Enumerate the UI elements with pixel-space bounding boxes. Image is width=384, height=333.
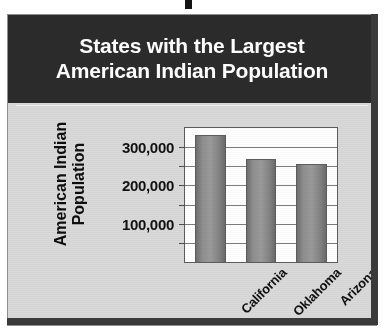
- y-axis-tick-mark: [179, 185, 185, 186]
- y-axis-title: American Indian Population: [44, 109, 96, 259]
- y-axis-tick-label: 300,000: [122, 139, 174, 156]
- bar: [296, 164, 326, 262]
- y-axis-tick-label: 200,000: [122, 177, 174, 194]
- scanned-page: States with the Largest American Indian …: [0, 0, 384, 333]
- chart-title-line-1: States with the Largest: [79, 35, 304, 58]
- panel-top-edge: [16, 105, 368, 106]
- bar: [246, 159, 276, 262]
- x-axis-tick-label: Oklahoma: [290, 265, 344, 319]
- bar: [195, 135, 225, 262]
- scan-artifact-speck: [185, 0, 192, 9]
- y-axis-tick-mark: [179, 224, 185, 225]
- y-axis-title-line-2: Population: [70, 143, 88, 226]
- y-axis-tick-labels: 300,000200,000100,000: [102, 103, 174, 263]
- y-axis-title-line-1: American Indian: [52, 122, 70, 246]
- chart-title-line-2: American Indian Population: [56, 60, 329, 83]
- page-frame-right-rule: [371, 14, 378, 325]
- x-axis-tick-label: California: [238, 265, 290, 317]
- y-axis-tick-label: 100,000: [122, 215, 174, 232]
- x-axis-tick-labels: CaliforniaOklahomaArizona: [184, 265, 384, 325]
- y-axis-tick-mark: [179, 243, 185, 244]
- chart-figure: States with the Largest American Indian …: [7, 14, 377, 326]
- page-frame-bottom-rule: [7, 318, 378, 325]
- plot-area: [184, 127, 338, 263]
- y-axis-tick-mark: [179, 205, 185, 206]
- y-axis-tick-mark: [179, 166, 185, 167]
- chart-title-band: States with the Largest American Indian …: [8, 15, 376, 103]
- chart-body: American Indian Population 300,000200,00…: [8, 103, 376, 325]
- y-axis-tick-mark: [179, 147, 185, 148]
